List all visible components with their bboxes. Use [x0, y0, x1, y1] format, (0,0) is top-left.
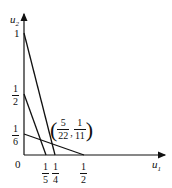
x-tick-half: 12 — [80, 162, 87, 185]
intersection-point-label: ( 522 , 111 ) — [50, 118, 93, 141]
u1-axis-label: u1 — [152, 159, 161, 173]
x-tick-quarter: 14 — [52, 162, 59, 185]
y-tick-1: 1 — [14, 28, 20, 39]
y-tick-half: 12 — [12, 84, 19, 107]
constraint-line-2 — [24, 94, 46, 155]
diagram-canvas — [0, 0, 172, 188]
origin-label: 0 — [15, 159, 21, 170]
x-tick-fifth: 15 — [42, 162, 49, 185]
y-tick-sixth: 16 — [12, 124, 19, 147]
